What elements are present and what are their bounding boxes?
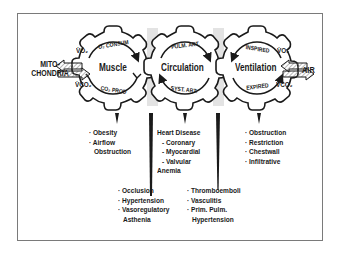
mitochondria-label: MITO- CHONDRIA (27, 60, 73, 78)
pulmonary-pointer-line (216, 113, 220, 190)
peripheral-pointer-line (149, 113, 153, 196)
list-item: Hypertension (187, 215, 241, 225)
right-vo2-label: V̇O₂ (277, 46, 289, 55)
list-item: Anemia (157, 166, 200, 176)
list-item: · Infiltrative (245, 157, 286, 167)
left-vo2-label: V̇O₂ (76, 46, 88, 55)
list-item: · Occlusion (118, 186, 169, 196)
left-vco2-label: V̇CO₂ (75, 80, 92, 89)
list-item: · Obesity (89, 128, 131, 138)
list-item: · Prim. Pulm. (187, 205, 241, 215)
muscle-gear-label: Muscle (99, 62, 127, 73)
ventilation-disorders-list: · Obstruction · Restriction · Chestwall … (245, 128, 286, 166)
circulation-gear-label: Circulation (161, 62, 204, 73)
list-item: · Vasculitis (187, 196, 241, 206)
list-item: Obstruction (89, 147, 131, 157)
circulation-disorders-list: Heart Disease - Coronary - Myocardial - … (157, 128, 200, 176)
list-item: - Coronary (157, 138, 200, 148)
list-item: Asthenia (118, 215, 169, 225)
list-item: - Myocardial (157, 147, 200, 157)
peripheral-circulation-disorders-list: · Occlusion · Hypertension · Vasoregulat… (118, 186, 169, 224)
list-item: - Valvular (157, 157, 200, 167)
circulation-pointer-icon (183, 113, 187, 124)
ventilation-pointer-icon (257, 113, 261, 124)
list-item: · Hypertension (118, 196, 169, 206)
muscle-pointer-icon (115, 113, 119, 124)
list-item: · Thromboemboli (187, 186, 241, 196)
list-item: · Airflow (89, 138, 131, 148)
muscle-disorders-list: · Obesity · Airflow Obstruction (89, 128, 131, 157)
list-item: · Vasoregulatory (118, 205, 169, 215)
list-heading: Heart Disease (157, 128, 200, 138)
list-item: · Obstruction (245, 128, 286, 138)
ventilation-gear-label: Ventilation (235, 62, 276, 73)
right-vco2-label: V̇CO₂ (276, 80, 293, 89)
list-item: · Chestwall (245, 147, 286, 157)
list-item: · Restriction (245, 138, 286, 148)
air-label: AIR (302, 65, 315, 75)
pulmonary-circulation-disorders-list: · Thromboemboli · Vasculitis · Prim. Pul… (187, 186, 241, 224)
